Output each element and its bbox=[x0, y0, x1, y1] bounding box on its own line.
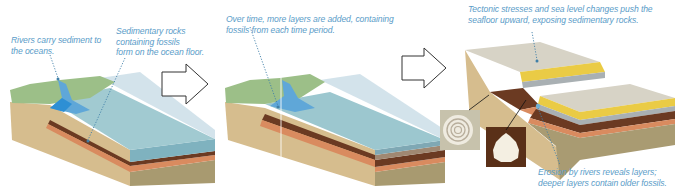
annotation-tectonic: Tectonic stresses and sea level changes … bbox=[468, 4, 653, 25]
annotation-rivers: Rivers carry sediment to the oceans. bbox=[11, 35, 101, 56]
annotation-erosion-line-2: deeper layers contain older fossils. bbox=[538, 178, 667, 189]
arrow-2-icon bbox=[402, 48, 446, 88]
annotation-layers-line-2: fossils from each time period. bbox=[226, 25, 394, 36]
annotation-erosion: Erosion by rivers reveals layers; deeper… bbox=[538, 167, 667, 188]
annotation-sedimentary-line-1: Sedimentary rocks bbox=[116, 26, 204, 37]
annotation-sedimentary-line-3: form on the ocean floor. bbox=[116, 47, 204, 58]
annotation-rivers-line-1: Rivers carry sediment to bbox=[11, 35, 101, 46]
annotation-rivers-line-2: the oceans. bbox=[11, 46, 101, 57]
annotation-tectonic-line-2: seafloor upward, exposing sedimentary ro… bbox=[468, 15, 653, 26]
annotation-sedimentary-line-2: containing fossils bbox=[116, 37, 204, 48]
annotation-tectonic-line-1: Tectonic stresses and sea level changes … bbox=[468, 4, 653, 15]
annotation-erosion-line-1: Erosion by rivers reveals layers; bbox=[538, 167, 667, 178]
annotation-sedimentary: Sedimentary rocks containing fossils for… bbox=[116, 26, 204, 58]
annotation-layers-line-1: Over time, more layers are added, contai… bbox=[226, 14, 394, 25]
annotation-layers: Over time, more layers are added, contai… bbox=[226, 14, 394, 35]
panel-2-layered-block bbox=[225, 74, 445, 186]
